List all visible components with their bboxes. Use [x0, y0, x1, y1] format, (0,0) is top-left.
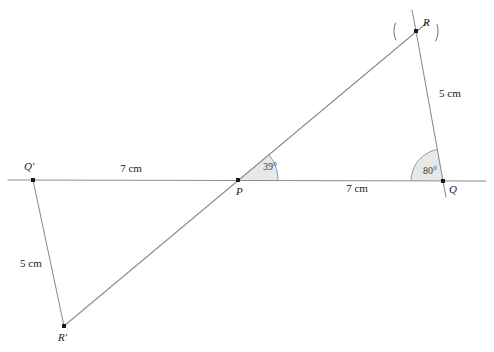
angle-label-80: 80° — [423, 165, 437, 176]
length-QR: 5 cm — [439, 87, 461, 99]
length-QprimeRprime: 5 cm — [20, 257, 42, 269]
geometry-svg: Q′ P Q R R′ 7 cm7 cm5 cm5 cm 39° 80° — [0, 0, 494, 352]
point-marker-qprime — [31, 178, 35, 182]
construction-arc-icon-1 — [394, 23, 396, 41]
point-marker-rprime — [62, 324, 66, 328]
vertex-points — [31, 29, 445, 328]
length-QprimeP: 7 cm — [120, 162, 142, 174]
angle-value-labels: 39° 80° — [263, 161, 437, 176]
label-p: P — [235, 185, 243, 197]
angle-label-39: 39° — [263, 161, 277, 172]
segment-q-extension — [443, 181, 446, 197]
length-PQ: 7 cm — [346, 182, 368, 194]
point-marker-r — [414, 29, 418, 33]
segment-r-extension — [412, 10, 416, 31]
construction-arc-icon-2 — [435, 24, 438, 41]
label-qprime: Q′ — [24, 160, 35, 172]
point-marker-p — [236, 178, 240, 182]
label-rprime: R′ — [57, 331, 68, 343]
segment-qprime-rprime — [33, 180, 64, 326]
point-marker-q — [441, 179, 445, 183]
geometry-diagram-canvas: Q′ P Q R R′ 7 cm7 cm5 cm5 cm 39° 80° — [0, 0, 494, 352]
transversal-rprime-r — [64, 21, 429, 326]
label-q: Q — [449, 183, 457, 195]
label-r: R — [422, 16, 430, 28]
